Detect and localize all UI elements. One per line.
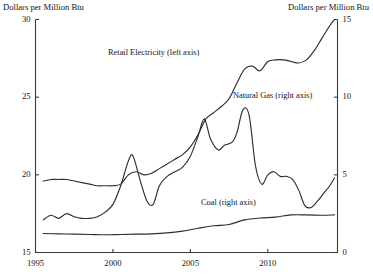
y2-tick-label-0: 0 [343, 248, 347, 257]
y2-tick-label-5: 5 [343, 170, 347, 179]
plot-area [0, 0, 373, 279]
y-tick-label-20: 20 [22, 170, 31, 179]
series-label-coal: Coal (right axis) [201, 198, 256, 208]
x-tick-label-2000: 2000 [93, 259, 133, 268]
series-line-retail-electricity-left-axis [43, 20, 334, 186]
series-line-natural-gas-right-axis [43, 108, 334, 220]
y2-tick-label-10: 10 [343, 92, 352, 101]
series-line-coal-right-axis [43, 215, 334, 235]
x-tick-label-1995: 1995 [16, 259, 56, 268]
x-tick-label-2010: 2010 [248, 259, 288, 268]
y-tick-label-15: 15 [22, 248, 31, 257]
y-tick-label-25: 25 [22, 92, 31, 101]
x-tick-label-2005: 2005 [170, 259, 210, 268]
y2-tick-label-15: 15 [343, 15, 352, 24]
chart-figure: Dollars per Million Btu Dollars per Mill… [0, 0, 373, 279]
series-label-retail-electricity: Retail Electricity (left axis) [108, 48, 199, 58]
y-tick-label-30: 30 [22, 15, 31, 24]
series-label-natural-gas: Natural Gas (right axis) [233, 91, 312, 101]
